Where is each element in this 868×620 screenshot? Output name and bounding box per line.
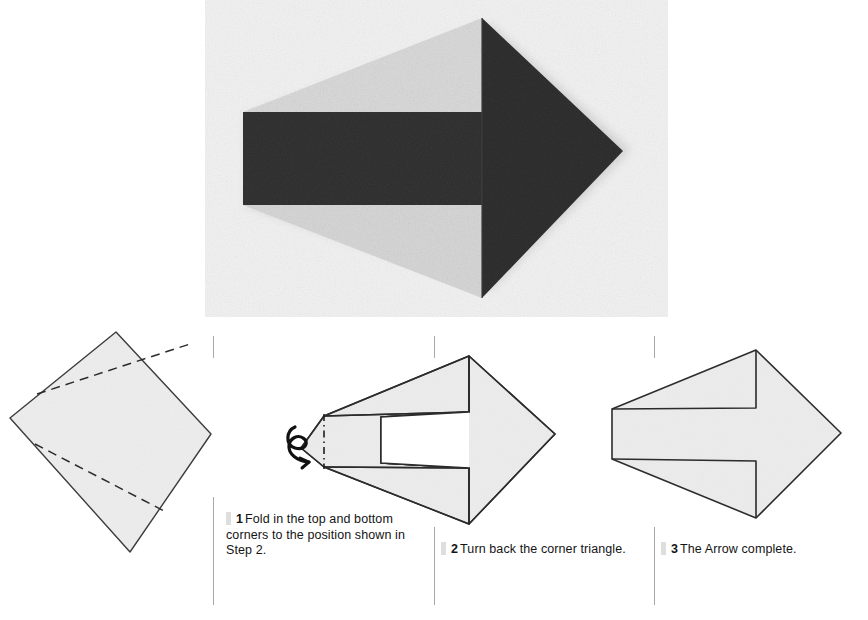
step-marker-bar [661, 542, 666, 555]
separator-rule-1-bottom [213, 497, 214, 605]
paper-square [10, 332, 211, 552]
step1-square-with-fold-lines [0, 330, 211, 565]
step-marker-bar [441, 542, 446, 555]
separator-rule-1-top [213, 336, 214, 358]
photo-graphic [205, 0, 668, 317]
step-marker-bar [226, 512, 231, 525]
finished-model-photo [205, 0, 668, 317]
step-3-caption: 3The Arrow complete. [661, 542, 856, 558]
step-number: 3 [671, 542, 678, 556]
separator-rule-2-bottom [434, 527, 435, 605]
turn-back-arrow-symbol [288, 427, 309, 468]
paper-arrow-outline [301, 356, 555, 524]
step3-completed-arrow [592, 335, 868, 535]
step-text: The Arrow complete. [680, 542, 797, 556]
separator-rule-3-bottom [654, 527, 655, 605]
step-2-caption: 2Turn back the corner triangle. [441, 542, 631, 558]
step-number: 2 [451, 542, 458, 556]
step-text: Fold in the top and bottom corners to th… [226, 512, 405, 557]
step-1-caption: 1Fold in the top and bottom corners to t… [226, 512, 426, 559]
step-number: 1 [236, 512, 243, 526]
step2-arrow-with-turn-back-symbol [283, 335, 573, 535]
step-text: Turn back the corner triangle. [460, 542, 626, 556]
paper-arrow-outline [612, 350, 841, 518]
